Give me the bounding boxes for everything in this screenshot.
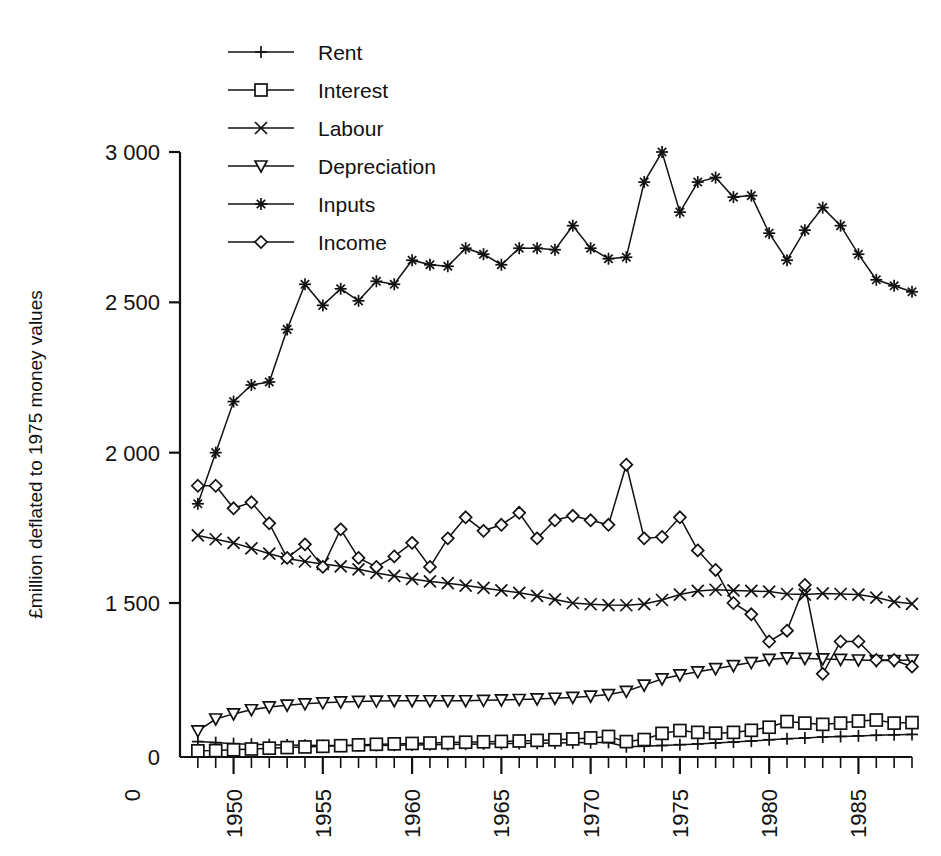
marker-square — [406, 737, 418, 749]
legend-item-label: Rent — [318, 41, 363, 64]
y-axis-title: £million deflated to 1975 money values — [25, 290, 46, 618]
marker-diamond — [799, 579, 811, 591]
y-axis-tick-label: 2 000 — [105, 441, 160, 466]
x-axis-tick-label: 1970 — [579, 789, 604, 838]
marker-square — [210, 745, 222, 757]
marker-diamond — [513, 507, 525, 519]
chart-figure: 01 5002 0002 5003 0001950195519601965197… — [0, 0, 941, 856]
marker-diamond — [781, 625, 793, 637]
legend-item-label: Depreciation — [318, 155, 436, 178]
marker-diamond — [638, 532, 650, 544]
marker-square — [692, 726, 704, 738]
marker-square — [442, 737, 454, 749]
legend-item-label: Income — [318, 231, 387, 254]
marker-square — [424, 737, 436, 749]
marker-square — [870, 714, 882, 726]
x-axis-tick-label: 1955 — [311, 789, 336, 838]
marker-square — [353, 739, 365, 751]
marker-diamond — [255, 236, 267, 248]
marker-diamond — [567, 510, 579, 522]
marker-square — [835, 717, 847, 729]
y-axis-tick-label: 1 500 — [105, 591, 160, 616]
x-axis-tick-label: 1950 — [222, 789, 247, 838]
marker-diamond — [406, 537, 418, 549]
marker-square — [299, 741, 311, 753]
x-axis-tick-label: 1965 — [489, 789, 514, 838]
marker-square — [263, 742, 275, 754]
series-interest — [192, 714, 918, 757]
marker-square — [245, 743, 257, 755]
marker-square — [460, 736, 472, 748]
marker-diamond — [620, 459, 632, 471]
marker-triangle-down — [210, 714, 222, 725]
marker-diamond — [835, 636, 847, 648]
y-axis-tick-label: 3 000 — [105, 140, 160, 165]
marker-square — [478, 736, 490, 748]
marker-square — [228, 744, 240, 756]
marker-square — [745, 724, 757, 736]
marker-triangle-down — [656, 674, 668, 685]
marker-diamond — [388, 550, 400, 562]
series-line — [198, 465, 912, 674]
marker-diamond — [602, 519, 614, 531]
series-income — [192, 459, 918, 680]
marker-triangle-down — [638, 680, 650, 691]
marker-square — [602, 730, 614, 742]
x-axis-origin-label: 0 — [120, 789, 145, 801]
marker-square — [281, 742, 293, 754]
legend-item-label: Inputs — [318, 193, 375, 216]
legend-item-label: Labour — [318, 117, 383, 140]
legend-item-label: Interest — [318, 79, 388, 102]
x-axis-tick-label: 1960 — [400, 789, 425, 838]
marker-square — [852, 715, 864, 727]
marker-square — [781, 716, 793, 728]
marker-diamond — [478, 525, 490, 537]
marker-diamond — [817, 668, 829, 680]
marker-diamond — [335, 523, 347, 535]
marker-diamond — [495, 519, 507, 531]
x-axis-tick-label: 1985 — [846, 789, 871, 838]
marker-diamond — [585, 514, 597, 526]
marker-diamond — [906, 661, 918, 673]
marker-square — [674, 725, 686, 737]
marker-square — [495, 735, 507, 747]
marker-diamond — [353, 552, 365, 564]
marker-diamond — [370, 561, 382, 573]
marker-square — [370, 738, 382, 750]
marker-diamond — [727, 597, 739, 609]
marker-square — [317, 740, 329, 752]
marker-square — [888, 717, 900, 729]
marker-triangle-down — [192, 726, 204, 737]
marker-square — [513, 735, 525, 747]
series-inputs — [192, 146, 918, 510]
marker-square — [549, 734, 561, 746]
x-axis-tick-label: 1975 — [668, 789, 693, 838]
marker-square — [638, 734, 650, 746]
marker-diamond — [745, 608, 757, 620]
marker-square — [585, 732, 597, 744]
y-axis-tick-label: 2 500 — [105, 290, 160, 315]
marker-square — [335, 740, 347, 752]
marker-square — [727, 726, 739, 738]
marker-square — [388, 738, 400, 750]
marker-square — [763, 721, 775, 733]
marker-diamond — [763, 636, 775, 648]
marker-square — [567, 733, 579, 745]
marker-square — [710, 727, 722, 739]
marker-square — [799, 717, 811, 729]
chart-legend: RentInterestLabourDepreciationInputsInco… — [228, 41, 436, 254]
marker-square — [620, 736, 632, 748]
marker-square — [906, 717, 918, 729]
marker-square — [255, 84, 267, 96]
marker-square — [192, 745, 204, 757]
marker-diamond — [424, 561, 436, 573]
marker-square — [817, 718, 829, 730]
y-axis-tick-label: 0 — [148, 745, 160, 770]
marker-square — [531, 734, 543, 746]
chart-canvas: 01 5002 0002 5003 0001950195519601965197… — [0, 0, 941, 856]
marker-square — [656, 727, 668, 739]
x-axis-tick-label: 1980 — [757, 789, 782, 838]
series-line — [198, 152, 912, 504]
